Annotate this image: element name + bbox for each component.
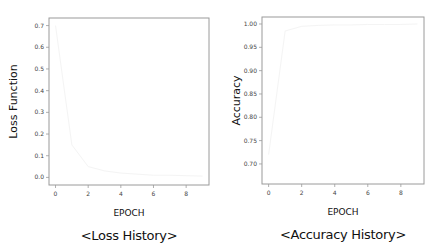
accuracy-x-tick-label: 0 xyxy=(267,189,271,196)
accuracy-x-axis-label: EPOCH xyxy=(263,207,423,217)
accuracy-y-tick-label: 0.70 xyxy=(244,160,258,167)
accuracy-plot-area: 0.700.750.800.850.900.951.0002468Accurac… xyxy=(0,0,447,200)
accuracy-chart: 0.700.750.800.850.900.951.0002468Accurac… xyxy=(0,0,447,249)
accuracy-y-axis-label: Accuracy xyxy=(230,75,243,126)
accuracy-x-tick-label: 2 xyxy=(300,189,304,196)
accuracy-x-tick-label: 8 xyxy=(399,189,403,196)
accuracy-accuracy-line xyxy=(269,24,418,155)
accuracy-y-tick-label: 1.00 xyxy=(244,20,258,27)
accuracy-y-tick-label: 0.85 xyxy=(244,90,258,97)
accuracy-y-tick-label: 0.80 xyxy=(244,113,258,120)
accuracy-plot-frame xyxy=(262,17,424,184)
accuracy-x-tick-label: 6 xyxy=(366,189,370,196)
accuracy-y-tick-label: 0.75 xyxy=(244,137,258,144)
accuracy-chart-caption: <Accuracy History> xyxy=(243,227,443,242)
accuracy-y-tick-label: 0.90 xyxy=(244,67,258,74)
accuracy-x-tick-label: 4 xyxy=(333,189,337,196)
accuracy-y-tick-label: 0.95 xyxy=(244,43,258,50)
